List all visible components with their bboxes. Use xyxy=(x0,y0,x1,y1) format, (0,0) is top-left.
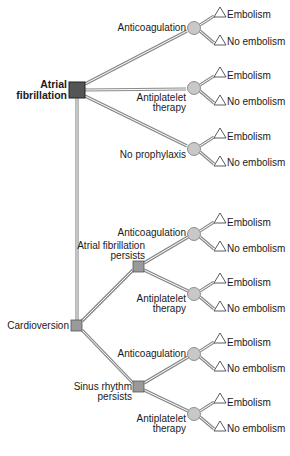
outcome-label: Embolism xyxy=(227,131,271,142)
root-decision-node xyxy=(69,82,85,98)
outcome-label: No embolism xyxy=(227,96,285,107)
terminal-triangle-icon xyxy=(214,95,226,105)
outcome-label: No embolism xyxy=(227,243,285,254)
chance-node xyxy=(188,22,201,35)
chance-node xyxy=(188,228,201,241)
terminal-triangle-icon xyxy=(214,301,226,311)
outcome-label: No embolism xyxy=(227,303,285,314)
chance-node xyxy=(188,82,201,95)
terminal-triangle-icon xyxy=(214,67,226,77)
outcome-label: No embolism xyxy=(227,157,285,168)
terminal-triangle-icon xyxy=(214,241,226,251)
outcome-label: Embolism xyxy=(227,9,271,20)
chance-node xyxy=(188,348,201,361)
terminal-triangle-icon xyxy=(214,128,226,138)
outcome-label: No embolism xyxy=(227,36,285,47)
outcome-label: Embolism xyxy=(227,277,271,288)
state-label: persists xyxy=(98,391,132,402)
chance-node xyxy=(188,288,201,301)
cardioversion-label: Cardioversion xyxy=(7,320,69,331)
option-label: therapy xyxy=(153,102,186,113)
outcome-label: Embolism xyxy=(227,217,271,228)
chance-nodes xyxy=(188,22,201,421)
option-label: Anticoagulation xyxy=(118,348,186,359)
outcome-label: Embolism xyxy=(227,397,271,408)
option-label: No prophylaxis xyxy=(120,149,186,160)
chance-node xyxy=(188,408,201,421)
terminal-triangle-icon xyxy=(214,35,226,45)
terminal-triangle-icon xyxy=(214,393,226,403)
decision-tree-diagram: Atrial fibrillation Anticoagulation Anti… xyxy=(0,0,290,456)
branches xyxy=(77,16,214,429)
terminal-triangle-icon xyxy=(214,421,226,431)
option-label: therapy xyxy=(153,303,186,314)
terminal-triangle-icon xyxy=(214,273,226,283)
outcome-label: Embolism xyxy=(227,70,271,81)
option-label: Anticoagulation xyxy=(118,22,186,33)
terminal-triangle-icon xyxy=(214,7,226,17)
outcome-label: Embolism xyxy=(227,337,271,348)
af-persists-decision-node xyxy=(133,261,144,272)
outcome-label: No embolism xyxy=(227,423,285,434)
sinus-rhythm-decision-node xyxy=(133,381,144,392)
terminal-triangle-icon xyxy=(214,333,226,343)
state-label: persists xyxy=(111,250,145,261)
terminal-nodes xyxy=(214,7,226,431)
terminal-triangle-icon xyxy=(214,213,226,223)
option-label: therapy xyxy=(153,423,186,434)
outcome-label: No embolism xyxy=(227,363,285,374)
root-label: fibrillation xyxy=(16,89,67,101)
option-label: Anticoagulation xyxy=(118,227,186,238)
terminal-triangle-icon xyxy=(214,361,226,371)
chance-node xyxy=(188,143,201,156)
terminal-triangle-icon xyxy=(214,156,226,166)
cardioversion-decision-node xyxy=(71,320,82,331)
